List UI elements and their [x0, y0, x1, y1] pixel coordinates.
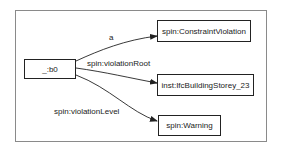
- edge-label-violation-root: spin:violationRoot: [87, 59, 150, 68]
- node-constraint-violation-label: spin:ConstraintViolation: [162, 27, 246, 36]
- node-constraint-violation: spin:ConstraintViolation: [157, 20, 251, 42]
- node-ifc-building-storey-label: inst:IfcBuildingStorey_23: [161, 81, 249, 90]
- node-ifc-building-storey: inst:IfcBuildingStorey_23: [157, 74, 254, 96]
- edge-label-a: a: [109, 33, 113, 42]
- edge-label-violation-level: spin:violationLevel: [54, 107, 119, 116]
- node-warning: spin:Warning: [158, 115, 221, 136]
- node-b0-label: _:b0: [42, 65, 58, 74]
- node-b0: _:b0: [24, 59, 76, 79]
- node-warning-label: spin:Warning: [166, 121, 212, 130]
